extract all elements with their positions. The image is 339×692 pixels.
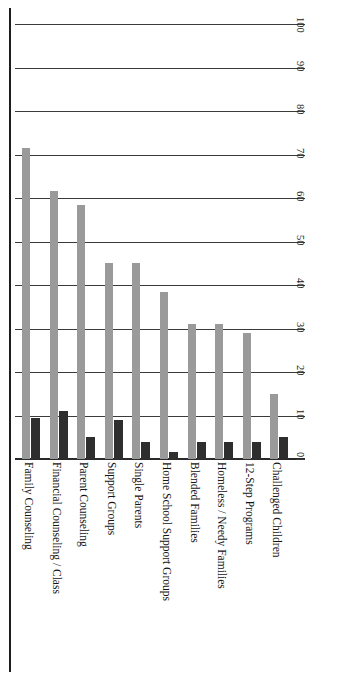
bar-secondary	[169, 452, 178, 459]
bar-group	[50, 20, 70, 460]
bar-primary	[160, 292, 168, 459]
bar-secondary	[31, 418, 40, 459]
bar-primary	[50, 191, 58, 459]
bar-group	[132, 20, 152, 460]
category-axis: Family CounselingFinancial Counseling / …	[11, 462, 305, 684]
bar-group	[22, 20, 42, 460]
value-tick-label: 60	[293, 191, 307, 221]
bar-primary	[243, 333, 251, 459]
bar-group	[243, 20, 263, 460]
category-label: Single Parents	[131, 462, 147, 680]
category-label: Homeless / Needy Families	[214, 462, 230, 680]
value-tick-label: 80	[293, 104, 307, 134]
bar-group	[105, 20, 125, 460]
bar-primary	[77, 205, 85, 459]
bar-secondary	[114, 420, 123, 459]
value-tick-label: 40	[293, 278, 307, 308]
plot-area	[11, 20, 305, 460]
category-label: Family Counseling	[21, 462, 37, 680]
category-label: Challenged Children	[269, 462, 285, 680]
category-label: Blended Families	[187, 462, 203, 680]
bar-series-container	[11, 20, 305, 460]
category-label: Parent Counseling	[76, 462, 92, 680]
bar-secondary	[59, 411, 68, 459]
value-tick-label: 10	[293, 409, 307, 439]
bar-group	[188, 20, 208, 460]
bar-group	[77, 20, 97, 460]
category-label: Home School Support Groups	[159, 462, 175, 680]
bar-secondary	[252, 442, 261, 459]
bar-group	[215, 20, 235, 460]
bar-primary	[188, 324, 196, 459]
bar-primary	[22, 148, 30, 459]
bar-primary	[132, 263, 140, 459]
bar-primary	[105, 263, 113, 459]
bar-secondary	[141, 442, 150, 459]
bar-primary	[270, 394, 278, 459]
bar-secondary	[224, 442, 233, 459]
bar-secondary	[197, 442, 206, 459]
bar-group	[160, 20, 180, 460]
category-label: 12-Step Programs	[242, 462, 258, 680]
category-label: Support Groups	[104, 462, 120, 680]
value-tick-label: 70	[293, 148, 307, 178]
value-tick-label: 90	[293, 61, 307, 91]
bar-chart: 0102030405060708090100 Family Counseling…	[0, 0, 339, 692]
value-tick-label: 100	[293, 17, 307, 47]
value-axis: 0102030405060708090100	[296, 20, 339, 460]
bar-secondary	[86, 437, 95, 459]
value-tick-label: 30	[293, 322, 307, 352]
bar-primary	[215, 324, 223, 459]
bar-secondary	[279, 437, 288, 459]
bar-group	[270, 20, 290, 460]
value-tick-label: 20	[293, 365, 307, 395]
category-label: Financial Counseling / Class	[49, 462, 65, 680]
value-tick-label: 50	[293, 235, 307, 265]
